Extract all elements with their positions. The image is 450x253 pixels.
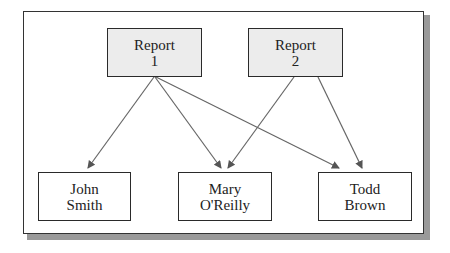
edge-report1-john (88, 77, 154, 168)
report-1-line2: 1 (151, 53, 159, 69)
edge-report2-todd (318, 77, 362, 168)
mary-line1: Mary (209, 181, 242, 197)
report-2-node[interactable]: Report 2 (248, 28, 343, 77)
mary-line2: O'Reilly (200, 197, 250, 213)
todd-line2: Brown (345, 197, 386, 213)
person-mary-oreilly-node[interactable]: Mary O'Reilly (178, 172, 272, 221)
john-line2: Smith (67, 197, 103, 213)
report-1-line1: Report (134, 37, 175, 53)
edge-report1-todd (156, 77, 339, 168)
edge-report2-mary (228, 77, 294, 168)
edge-report1-mary (155, 77, 221, 168)
john-line1: John (70, 181, 98, 197)
todd-line1: Todd (350, 181, 381, 197)
person-john-smith-node[interactable]: John Smith (38, 172, 131, 221)
report-2-line1: Report (275, 37, 316, 53)
report-2-line2: 2 (292, 53, 300, 69)
person-todd-brown-node[interactable]: Todd Brown (318, 172, 412, 221)
report-1-node[interactable]: Report 1 (107, 28, 202, 77)
